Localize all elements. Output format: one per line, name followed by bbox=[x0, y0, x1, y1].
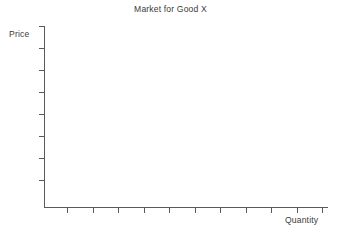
y-axis-tick bbox=[39, 180, 45, 181]
x-axis-tick bbox=[195, 207, 196, 213]
x-axis-tick bbox=[118, 207, 119, 213]
y-axis-tick bbox=[39, 158, 45, 159]
x-axis-line bbox=[44, 207, 328, 208]
y-axis-label: Price bbox=[9, 28, 29, 40]
x-axis-tick bbox=[93, 207, 94, 213]
x-axis-tick bbox=[144, 207, 145, 213]
y-axis-tick bbox=[39, 26, 45, 27]
y-axis-tick bbox=[39, 136, 45, 137]
y-axis-tick bbox=[39, 114, 45, 115]
chart-canvas: Market for Good X Price Quantity bbox=[0, 0, 341, 237]
chart-title: Market for Good X bbox=[0, 3, 341, 15]
y-axis-tick bbox=[39, 70, 45, 71]
x-axis-tick bbox=[169, 207, 170, 213]
x-axis-tick bbox=[220, 207, 221, 213]
x-axis-tick bbox=[271, 207, 272, 213]
x-axis-tick bbox=[322, 207, 323, 213]
x-axis-tick bbox=[297, 207, 298, 213]
x-axis-label: Quantity bbox=[285, 214, 318, 226]
x-axis-tick bbox=[67, 207, 68, 213]
plot-area bbox=[44, 26, 327, 207]
y-axis-tick bbox=[39, 92, 45, 93]
x-axis-tick bbox=[246, 207, 247, 213]
y-axis-tick bbox=[39, 48, 45, 49]
